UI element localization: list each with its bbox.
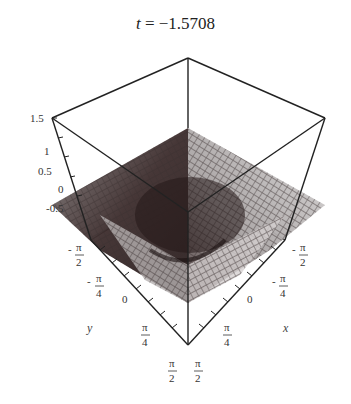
z-tick-neg0.5: -0.5 [46,202,64,214]
z-tick-1.5: 1.5 [30,112,44,124]
x-tick-neg-pi-2-num: π [300,241,306,253]
y-tick-0: 0 [122,293,128,305]
y-tick-pi-4-num: π [142,321,148,333]
z-tick-1: 1 [44,145,50,157]
x-tick-neg-pi-4-den: 4 [280,287,286,299]
x-tick-neg-pi-2-sign: - [292,243,296,255]
y-tick-neg-pi-2-sign: - [68,243,72,255]
x-tick-neg-pi-4-sign: - [272,275,276,287]
x-tick-pi-4-den: 4 [224,336,230,348]
y-axis-label: y [86,321,93,335]
z-axis-ticks [52,118,82,196]
y-tick-neg-pi-4-num: π [96,272,102,284]
z-axis-labels: 1.5 1 0.5 0 -0.5 [30,112,64,214]
x-tick-0: 0 [247,293,253,305]
x-tick-pi-4-num: π [224,321,230,333]
y-tick-pi-2-num: π [169,357,175,369]
z-tick-0: 0 [58,183,64,195]
y-tick-pi-2-den: 2 [169,372,175,384]
x-tick-neg-pi-2-den: 2 [300,256,306,268]
y-tick-neg-pi-4-sign: - [87,275,91,287]
z-tick-0.5: 0.5 [38,165,52,177]
surface-plot: 1.5 1 0.5 0 -0.5 - π 2 - π 4 0 y π 4 π 2… [0,0,351,404]
y-tick-neg-pi-4-den: 4 [96,287,102,299]
y-tick-neg-pi-2-den: 2 [76,256,82,268]
x-tick-neg-pi-4-num: π [280,272,286,284]
y-tick-pi-4-den: 4 [142,336,148,348]
x-tick-pi-2-num: π [195,357,201,369]
x-axis-label: x [282,321,289,335]
x-tick-pi-2-den: 2 [195,372,201,384]
y-tick-neg-pi-2-num: π [76,241,82,253]
